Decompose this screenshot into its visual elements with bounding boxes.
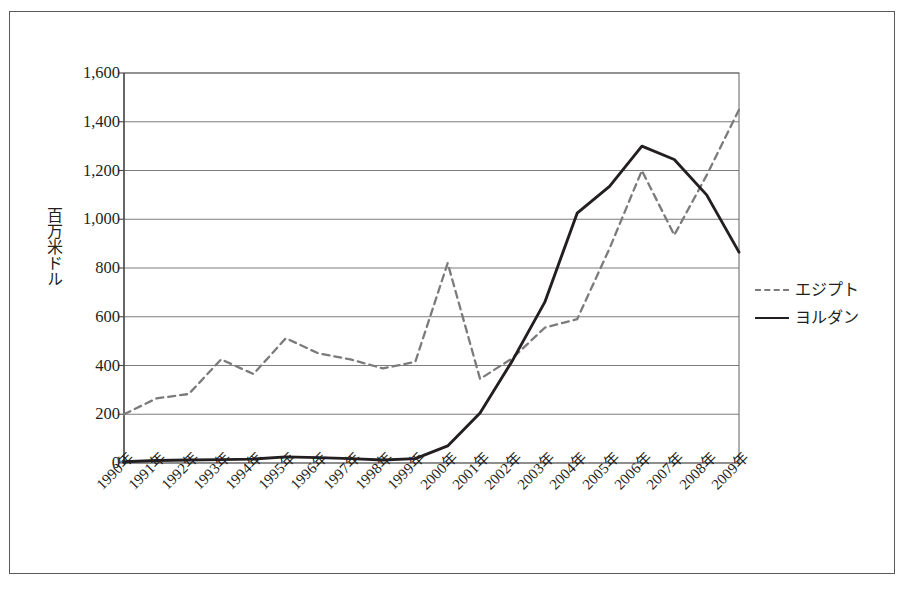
legend-item[interactable]: ヨルダン: [755, 304, 895, 332]
legend-label: ヨルダン: [795, 310, 859, 326]
chart-legend: エジプトヨルダン: [755, 276, 895, 332]
legend-swatch-solid-icon: [755, 312, 789, 324]
legend-label: エジプト: [795, 282, 859, 298]
line-chart: 百万米ドル 02004006008001,0001,2001,4001,600 …: [10, 12, 896, 575]
legend-line: [755, 317, 789, 319]
legend-item[interactable]: エジプト: [755, 276, 895, 304]
figure-frame: 百万米ドル 02004006008001,0001,2001,4001,600 …: [9, 11, 895, 574]
legend-line: [755, 289, 789, 291]
legend-swatch-dashed-icon: [755, 284, 789, 296]
